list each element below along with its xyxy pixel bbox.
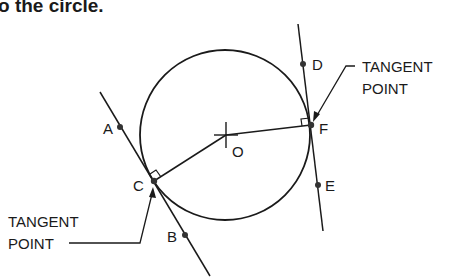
point-d <box>300 61 306 67</box>
center-label-o: O <box>232 143 244 160</box>
point-f <box>308 122 314 128</box>
left-callout-leader <box>69 194 152 243</box>
point-a <box>117 124 123 130</box>
label-d: D <box>312 56 323 73</box>
right-angle-mark-c <box>150 170 161 177</box>
radius-oc <box>154 135 226 181</box>
label-a: A <box>103 120 113 137</box>
label-c: C <box>133 177 144 194</box>
right-callout-leader <box>316 66 355 117</box>
heading-text: o the circle. <box>0 0 104 16</box>
label-e: E <box>325 177 335 194</box>
point-e <box>315 182 321 188</box>
point-b <box>182 232 188 238</box>
left-callout-arrow-icon <box>149 187 156 198</box>
left-callout-line1: TANGENT <box>8 213 79 230</box>
right-callout-line2: POINT <box>362 80 408 97</box>
radius-of <box>226 125 311 135</box>
tangent-diagram: o the circle. O A C B D F E TANGENT POIN… <box>0 0 465 279</box>
point-c <box>151 178 157 184</box>
label-f: F <box>319 120 328 137</box>
right-callout-line1: TANGENT <box>362 58 433 75</box>
left-callout-line2: POINT <box>8 235 54 252</box>
label-b: B <box>167 228 177 245</box>
